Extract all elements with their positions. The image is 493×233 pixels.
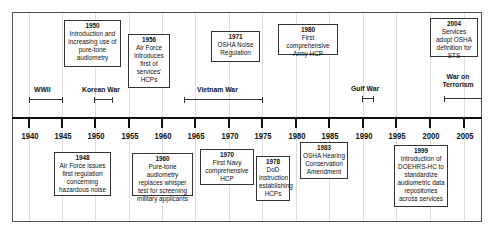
- war-span-wwii: [29, 97, 63, 103]
- tick-mark: [295, 118, 297, 128]
- year-label: 1980: [288, 131, 305, 141]
- tick-mark: [362, 118, 364, 128]
- event-text: Air Force introduces first of services' …: [131, 44, 167, 84]
- year-label: 1955: [121, 131, 138, 141]
- tick-mark: [261, 118, 263, 128]
- event-box-1948: 1948 Air Force issues first regulation c…: [54, 152, 111, 196]
- tick-mark: [429, 118, 431, 128]
- year-label: 1945: [54, 131, 71, 141]
- event-text: Services adopt OSHA definition for STS: [433, 28, 475, 60]
- event-text: Introduction of DOEHRS-HC to standardize…: [397, 155, 445, 203]
- tick-mark: [61, 118, 63, 128]
- tick-mark: [228, 118, 230, 128]
- event-year: 1970: [203, 151, 251, 159]
- event-text: DoD instruction establishing HCPs: [259, 166, 287, 198]
- event-text: Pure-tone audiometry replaces whisper te…: [135, 163, 190, 203]
- timeline-axis: [12, 117, 482, 119]
- event-box-1999: 1999 Introduction of DOEHRS-HC to standa…: [394, 145, 448, 207]
- tick-mark: [194, 118, 196, 128]
- war-label-terrorism: War on Terrorism: [440, 73, 476, 89]
- event-box-1950: 1950 Introduction and increasing use of …: [64, 20, 121, 67]
- event-year: 1983: [303, 144, 345, 152]
- year-label: 1985: [321, 131, 338, 141]
- war-span-terrorism: [444, 96, 482, 102]
- tick-mark: [463, 118, 465, 128]
- event-year: 2004: [433, 20, 475, 28]
- tick-mark: [161, 118, 163, 128]
- event-year: 1948: [57, 154, 108, 162]
- event-year: 1971: [214, 33, 257, 41]
- event-box-1956: 1956 Air Force introduces first of servi…: [128, 34, 170, 88]
- year-label: 1970: [221, 131, 238, 141]
- event-box-2004: 2004 Services adopt OSHA definition for …: [430, 18, 478, 57]
- year-label: 1950: [87, 131, 104, 141]
- event-text: OSHA Hearing Conservation Amendment: [303, 152, 345, 176]
- event-box-1960: 1960 Pure-tone audiometry replaces whisp…: [132, 153, 193, 196]
- event-text: Introduction and increasing use of pure-…: [67, 30, 118, 62]
- event-year: 1980: [281, 26, 335, 34]
- war-span-vietnam: [184, 97, 263, 103]
- year-label: 1975: [254, 131, 271, 141]
- year-label: 1990: [355, 131, 372, 141]
- event-year: 1950: [67, 22, 118, 30]
- event-box-1978: 1978 DoD instruction establishing HCPs: [256, 156, 290, 201]
- event-box-1971: 1971 OSHA Noise Regulation: [211, 31, 260, 62]
- year-label: 1965: [187, 131, 204, 141]
- war-span-gulf: [362, 96, 374, 102]
- year-label: 1960: [154, 131, 171, 141]
- year-label: 2000: [422, 131, 439, 141]
- event-year: 1999: [397, 147, 445, 155]
- event-text: First Navy comprehensive HCP: [203, 159, 251, 183]
- event-year: 1956: [131, 36, 167, 44]
- war-span-korean: [94, 97, 113, 103]
- war-label-wwii: WWII: [34, 86, 51, 94]
- tick-mark: [28, 118, 30, 128]
- year-label: 2005: [456, 131, 473, 141]
- event-box-1983: 1983 OSHA Hearing Conservation Amendment: [300, 142, 348, 179]
- war-label-gulf: Gulf War: [351, 85, 379, 93]
- tick-mark: [94, 118, 96, 128]
- tick-mark: [128, 118, 130, 128]
- tick-mark: [328, 118, 330, 128]
- event-box-1980: 1980 First comprehensive Army HCP: [278, 24, 338, 55]
- event-text: OSHA Noise Regulation: [214, 41, 257, 57]
- year-label: 1940: [21, 131, 38, 141]
- war-label-korean: Korean War: [82, 86, 120, 94]
- tick-mark: [395, 118, 397, 128]
- event-text: First comprehensive Army HCP: [281, 34, 335, 58]
- event-year: 1978: [259, 158, 287, 166]
- year-label: 1995: [388, 131, 405, 141]
- event-year: 1960: [135, 155, 190, 163]
- war-label-vietnam: Vietnam War: [197, 86, 238, 94]
- event-text: Air Force issues first regulation concer…: [57, 162, 108, 194]
- event-box-1970: 1970 First Navy comprehensive HCP: [200, 149, 254, 185]
